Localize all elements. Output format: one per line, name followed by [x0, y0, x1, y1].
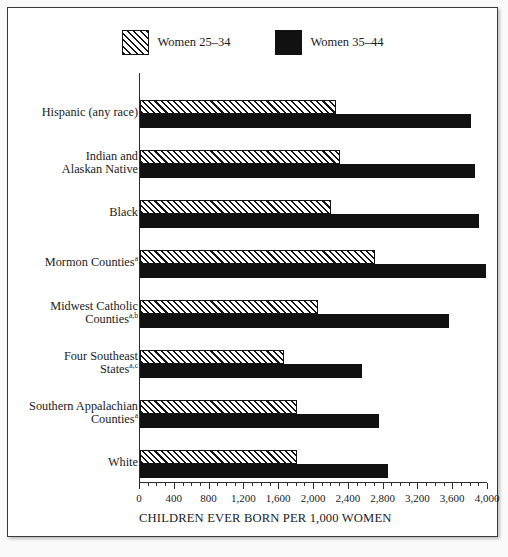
x-tick-major [348, 483, 349, 489]
x-tick-minor [270, 483, 271, 486]
category-label: White [108, 456, 138, 470]
x-tick-minor [391, 483, 392, 486]
x-tick-minor [435, 483, 436, 486]
x-tick-minor [156, 483, 157, 486]
x-tick-minor [226, 483, 227, 486]
bar-women-25-34 [140, 300, 318, 314]
x-tick-minor [217, 483, 218, 486]
category-label-footnote: a,c [129, 361, 138, 370]
bar-women-35-44 [140, 414, 379, 428]
category-label: Indian andAlaskan Native [62, 150, 138, 177]
x-tick-label: 3,200 [405, 492, 430, 504]
x-tick-minor [287, 483, 288, 486]
x-tick-label: 800 [200, 492, 217, 504]
x-tick-minor [357, 483, 358, 486]
plot-area: 04008001,2001,6002,0002,4002,8003,2003,6… [8, 8, 499, 538]
x-tick-minor [322, 483, 323, 486]
x-tick-minor [400, 483, 401, 486]
category-label-footnote: a [135, 411, 138, 420]
category-label-line: Southern Appalachian [29, 400, 138, 414]
x-tick-minor [339, 483, 340, 486]
x-tick-major [417, 483, 418, 489]
x-tick-label: 1,200 [231, 492, 256, 504]
page-background: Women 25–34 Women 35–44 04008001,2001,60… [0, 0, 508, 557]
category-label-line: Black [109, 206, 138, 220]
x-tick-major [452, 483, 453, 489]
bar-women-35-44 [140, 164, 475, 178]
x-tick-major [139, 483, 140, 489]
x-tick-minor [235, 483, 236, 486]
category-label-line: Countiesa [29, 413, 138, 427]
category-label-line: Hispanic (any race) [42, 106, 138, 120]
x-tick-major [174, 483, 175, 489]
x-tick-minor [148, 483, 149, 486]
category-label-line: Countiesa,b [50, 313, 138, 327]
x-tick-major [278, 483, 279, 489]
x-tick-minor [261, 483, 262, 486]
bar-women-25-34 [140, 350, 284, 364]
x-tick-minor [296, 483, 297, 486]
bar-women-35-44 [140, 214, 479, 228]
category-label-line: Midwest Catholic [50, 300, 138, 314]
x-tick-major [243, 483, 244, 489]
x-tick-minor [252, 483, 253, 486]
x-tick-minor [478, 483, 479, 486]
x-tick-minor [409, 483, 410, 486]
x-tick-minor [304, 483, 305, 486]
x-tick-major [383, 483, 384, 489]
x-tick-minor [330, 483, 331, 486]
x-tick-label: 2,800 [370, 492, 395, 504]
bar-women-35-44 [140, 314, 449, 328]
bar-women-35-44 [140, 464, 388, 478]
bar-women-35-44 [140, 114, 471, 128]
category-label: Mormon Countiesa [45, 256, 138, 270]
x-tick-label: 1,600 [266, 492, 291, 504]
category-label: Four SoutheastStatesa,c [64, 350, 138, 377]
bar-women-25-34 [140, 400, 297, 414]
x-tick-major [209, 483, 210, 489]
category-label-line: Statesa,c [64, 363, 138, 377]
category-label-line: White [108, 456, 138, 470]
category-label: Midwest CatholicCountiesa,b [50, 300, 138, 327]
x-tick-minor [191, 483, 192, 486]
x-tick-major [313, 483, 314, 489]
bar-women-25-34 [140, 250, 375, 264]
x-tick-minor [365, 483, 366, 486]
x-tick-minor [374, 483, 375, 486]
x-tick-minor [426, 483, 427, 486]
x-tick-minor [165, 483, 166, 486]
bar-women-25-34 [140, 450, 297, 464]
category-label-line: Four Southeast [64, 350, 138, 364]
x-tick-major [487, 483, 488, 489]
x-axis-title: CHILDREN EVER BORN PER 1,000 WOMEN [139, 511, 392, 526]
category-label: Black [109, 206, 138, 220]
bar-women-25-34 [140, 200, 331, 214]
category-label-line: Indian and [62, 150, 138, 164]
chart-frame: Women 25–34 Women 35–44 04008001,2001,60… [7, 7, 498, 537]
category-label: Hispanic (any race) [42, 106, 138, 120]
x-tick-minor [444, 483, 445, 486]
category-label-footnote: a [135, 254, 138, 263]
x-tick-label: 2,400 [335, 492, 360, 504]
x-tick-label: 0 [136, 492, 142, 504]
bar-women-35-44 [140, 364, 362, 378]
category-label-footnote: a,b [129, 311, 138, 320]
x-tick-label: 3,600 [440, 492, 465, 504]
bar-women-35-44 [140, 264, 486, 278]
x-tick-minor [461, 483, 462, 486]
x-tick-label: 2,000 [301, 492, 326, 504]
category-label-line: Alaskan Native [62, 163, 138, 177]
x-tick-label: 4,000 [475, 492, 500, 504]
category-label: Southern AppalachianCountiesa [29, 400, 138, 427]
x-tick-label: 400 [166, 492, 183, 504]
x-tick-minor [183, 483, 184, 486]
x-tick-minor [200, 483, 201, 486]
category-label-line: Mormon Countiesa [45, 256, 138, 270]
bar-women-25-34 [140, 150, 340, 164]
bar-women-25-34 [140, 100, 336, 114]
x-tick-minor [470, 483, 471, 486]
